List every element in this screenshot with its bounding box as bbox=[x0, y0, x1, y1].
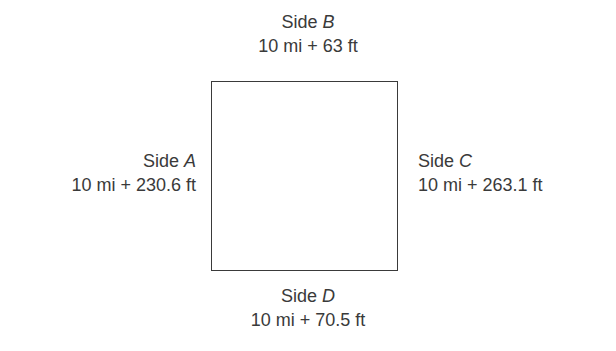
side-d-name: D bbox=[322, 286, 335, 306]
side-d-prefix: Side bbox=[281, 286, 322, 306]
side-c-length: 10 mi + 263.1 ft bbox=[418, 173, 543, 197]
side-c-prefix: Side bbox=[418, 151, 459, 171]
side-b-length: 10 mi + 63 ft bbox=[208, 34, 408, 58]
side-d-length: 10 mi + 70.5 ft bbox=[208, 308, 408, 332]
side-b-title: Side B bbox=[208, 10, 408, 34]
side-c-name: C bbox=[459, 151, 472, 171]
side-c-label: Side C 10 mi + 263.1 ft bbox=[418, 149, 543, 197]
side-a-prefix: Side bbox=[143, 151, 184, 171]
square-plot bbox=[211, 81, 398, 271]
side-a-name: A bbox=[184, 151, 196, 171]
side-d-label: Side D 10 mi + 70.5 ft bbox=[208, 284, 408, 332]
side-a-title: Side A bbox=[71, 149, 196, 173]
side-c-title: Side C bbox=[418, 149, 543, 173]
side-a-length: 10 mi + 230.6 ft bbox=[71, 173, 196, 197]
side-d-title: Side D bbox=[208, 284, 408, 308]
side-b-label: Side B 10 mi + 63 ft bbox=[208, 10, 408, 58]
side-b-prefix: Side bbox=[281, 12, 322, 32]
side-b-name: B bbox=[323, 12, 335, 32]
side-a-label: Side A 10 mi + 230.6 ft bbox=[71, 149, 196, 197]
